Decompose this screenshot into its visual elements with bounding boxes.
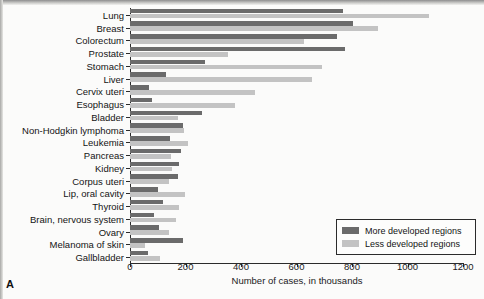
legend-item-more: More developed regions [342, 224, 470, 237]
category-label: Prostate [89, 48, 124, 59]
bar-more-developed [130, 200, 163, 205]
bar-less-developed [130, 14, 429, 19]
bar-more-developed [130, 123, 183, 128]
bar-more-developed [130, 98, 152, 103]
panel-letter: A [6, 278, 14, 290]
category-label: Bladder [91, 111, 124, 122]
bar-more-developed [130, 47, 345, 52]
bar-more-developed [130, 60, 205, 65]
bar-less-developed [130, 52, 228, 57]
bar-less-developed [130, 154, 171, 159]
bar-more-developed [130, 149, 181, 154]
bar-more-developed [130, 72, 166, 77]
x-tick-label-0: 0 [127, 261, 132, 272]
bar-less-developed [130, 192, 185, 197]
bar-less-developed [130, 179, 169, 184]
legend-swatch-less-developed [342, 240, 359, 247]
bar-row: Cervix uteri [130, 85, 463, 98]
category-label: Colorectum [75, 35, 124, 46]
bar-more-developed [130, 9, 343, 14]
category-label: Breast [97, 22, 124, 33]
bar-less-developed [130, 128, 184, 133]
bar-more-developed [130, 174, 178, 179]
x-tick-label-800: 800 [344, 261, 360, 272]
x-tick-label-1200: 1200 [452, 261, 473, 272]
bar-less-developed [130, 77, 312, 82]
category-label: Brain, nervous system [30, 213, 124, 224]
bar-row: Pancreas [130, 149, 463, 162]
bar-row: Colorectum [130, 34, 463, 47]
legend-label-more-developed: More developed regions [365, 226, 462, 236]
x-tick-label-600: 600 [289, 261, 305, 272]
bar-more-developed [130, 225, 159, 230]
category-label: Lung [103, 9, 124, 20]
bar-less-developed [130, 26, 378, 31]
bar-more-developed [130, 34, 337, 39]
x-tick-label-400: 400 [233, 261, 249, 272]
bar-row: Thyroid [130, 200, 463, 213]
bar-less-developed [130, 116, 178, 121]
bar-row: Breast [130, 21, 463, 34]
figure-panel: LungBreastColorectumProstateStomachLiver… [0, 0, 484, 299]
bar-more-developed [130, 21, 353, 26]
bar-less-developed [130, 230, 169, 235]
bar-row: Bladder [130, 111, 463, 124]
bar-less-developed [130, 205, 179, 210]
legend-item-less: Less developed regions [342, 237, 470, 250]
bar-more-developed [130, 251, 148, 256]
category-label: Thyroid [92, 201, 124, 212]
category-label: Esophagus [76, 99, 124, 110]
bar-less-developed [130, 256, 160, 261]
category-label: Leukemia [83, 137, 124, 148]
bar-more-developed [130, 85, 149, 90]
bar-row: Leukemia [130, 136, 463, 149]
bar-more-developed [130, 187, 158, 192]
bar-less-developed [130, 167, 172, 172]
scan-edge-top [0, 0, 484, 5]
scan-edge-left [0, 0, 3, 299]
bar-less-developed [130, 103, 235, 108]
bar-less-developed [130, 243, 145, 248]
category-label: Kidney [95, 162, 124, 173]
bar-more-developed [130, 111, 202, 116]
bar-less-developed [130, 39, 304, 44]
x-axis-title: Number of cases, in thousands [130, 275, 464, 286]
bar-more-developed [130, 162, 179, 167]
legend-label-less-developed: Less developed regions [365, 239, 460, 249]
category-label: Liver [103, 73, 124, 84]
bar-more-developed [130, 238, 183, 243]
chart-legend: More developed regions Less developed re… [336, 219, 476, 255]
category-label: Melanoma of skin [50, 239, 124, 250]
bar-row: Esophagus [130, 98, 463, 111]
category-label: Pancreas [84, 150, 124, 161]
bar-less-developed [130, 65, 322, 70]
bar-less-developed [130, 218, 176, 223]
bar-row: Kidney [130, 162, 463, 175]
category-label: Corpus uteri [72, 175, 124, 186]
legend-swatch-more-developed [342, 227, 359, 234]
bar-row: Stomach [130, 60, 463, 73]
bar-more-developed [130, 136, 170, 141]
bar-less-developed [130, 141, 188, 146]
category-label: Stomach [87, 60, 125, 71]
bar-row: Lung [130, 9, 463, 22]
x-tick-label-1000: 1000 [397, 261, 418, 272]
category-label: Gallbladder [75, 252, 124, 263]
category-label: Cervix uteri [76, 86, 124, 97]
category-label: Non-Hodgkin lymphoma [22, 124, 124, 135]
bar-row: Liver [130, 72, 463, 85]
x-tick-label-200: 200 [178, 261, 194, 272]
bar-row: Lip, oral cavity [130, 187, 463, 200]
bar-row: Non-Hodgkin lymphoma [130, 123, 463, 136]
category-label: Lip, oral cavity [63, 188, 124, 199]
bar-row: Corpus uteri [130, 174, 463, 187]
bar-row: Prostate [130, 47, 463, 60]
bar-more-developed [130, 213, 154, 218]
bar-less-developed [130, 90, 255, 95]
category-label: Ovary [99, 226, 124, 237]
